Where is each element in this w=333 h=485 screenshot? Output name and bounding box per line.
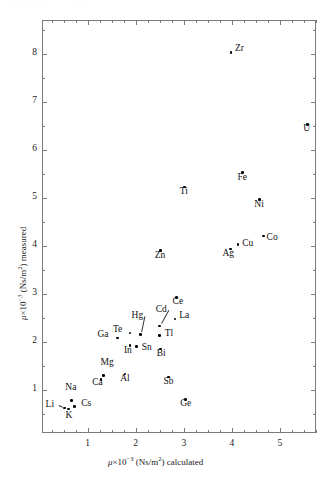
x-minor-tick-top	[64, 20, 65, 23]
y-minor-tick	[42, 366, 45, 367]
data-point-ga[interactable]	[116, 337, 119, 340]
point-label-na: Na	[65, 382, 76, 392]
point-label-co: Co	[267, 232, 278, 242]
point-label-zn: Zn	[155, 250, 166, 260]
data-point-mg[interactable]	[102, 374, 105, 377]
x-minor-tick	[304, 430, 305, 433]
x-tick-label-5: 5	[270, 438, 290, 448]
x-minor-tick	[64, 430, 65, 433]
x-minor-tick	[76, 430, 77, 433]
point-label-zr: Zr	[235, 43, 244, 53]
point-label-ca: Ca	[92, 377, 103, 387]
point-label-la: La	[179, 310, 189, 320]
point-label-cs: Cs	[81, 398, 91, 408]
point-label-bi: Bi	[157, 348, 166, 358]
x-minor-tick-top	[208, 20, 209, 23]
point-label-in: In	[124, 345, 132, 355]
x-major-tick-top	[88, 20, 89, 25]
x-minor-tick-top	[100, 20, 101, 23]
x-minor-tick	[268, 430, 269, 433]
scan-artifact-text: · · · · · · · · · ·	[10, 0, 310, 10]
x-major-tick-top	[232, 20, 233, 25]
y-minor-tick-right	[313, 174, 316, 175]
x-minor-tick	[220, 430, 221, 433]
x-minor-tick	[244, 430, 245, 433]
y-minor-tick	[42, 222, 45, 223]
y-major-tick-right	[311, 294, 316, 295]
y-minor-tick-right	[313, 366, 316, 367]
y-minor-tick-right	[313, 30, 316, 31]
x-axis-title: μ×10−3 (Ns/m2) calculated	[108, 455, 203, 467]
x-minor-tick-top	[112, 20, 113, 23]
y-minor-tick-right	[313, 414, 316, 415]
point-label-ga: Ga	[97, 329, 108, 339]
y-minor-tick-right	[313, 222, 316, 223]
x-minor-tick	[196, 430, 197, 433]
x-minor-tick-top	[244, 20, 245, 23]
x-minor-tick-top	[76, 20, 77, 23]
x-tick-label-1: 1	[78, 438, 98, 448]
point-label-tl: Tl	[165, 328, 173, 338]
point-label-hg: Hg	[132, 310, 144, 320]
data-point-sn[interactable]	[135, 345, 138, 348]
y-major-tick-right	[311, 54, 316, 55]
x-minor-tick	[256, 430, 257, 433]
x-minor-tick-top	[52, 20, 53, 23]
y-tick-label-6: 6	[22, 143, 37, 153]
x-minor-tick	[148, 430, 149, 433]
x-minor-tick-top	[124, 20, 125, 23]
y-minor-tick	[42, 30, 45, 31]
x-minor-tick-top	[304, 20, 305, 23]
y-major-tick	[42, 54, 47, 55]
x-minor-tick-top	[316, 20, 317, 23]
y-major-tick-right	[311, 342, 316, 343]
x-minor-tick	[292, 430, 293, 433]
x-minor-tick-top	[172, 20, 173, 23]
y-minor-tick-right	[313, 270, 316, 271]
y-major-tick	[42, 150, 47, 151]
point-label-mg: Mg	[101, 357, 114, 367]
y-major-tick-right	[311, 198, 316, 199]
x-minor-tick	[52, 430, 53, 433]
point-label-sb: Sb	[163, 376, 173, 386]
y-major-tick	[42, 102, 47, 103]
y-tick-label-5: 5	[22, 191, 37, 201]
plot-frame	[42, 20, 316, 433]
y-minor-tick	[42, 414, 45, 415]
data-point-zr[interactable]	[230, 51, 233, 54]
point-label-ge: Ge	[180, 398, 191, 408]
x-minor-tick	[124, 430, 125, 433]
x-minor-tick	[100, 430, 101, 433]
y-major-tick	[42, 342, 47, 343]
y-minor-tick	[42, 78, 45, 79]
x-tick-label-2: 2	[126, 438, 146, 448]
y-major-tick	[42, 390, 47, 391]
y-minor-tick-right	[313, 126, 316, 127]
x-minor-tick	[160, 430, 161, 433]
x-major-tick	[280, 428, 281, 433]
point-label-li: Li	[46, 399, 54, 409]
data-point-hg[interactable]	[139, 333, 142, 336]
y-major-tick-right	[311, 390, 316, 391]
data-point-cs[interactable]	[73, 405, 76, 408]
y-tick-label-1: 1	[22, 383, 37, 393]
data-point-na[interactable]	[70, 399, 73, 402]
y-minor-tick	[42, 174, 45, 175]
data-point-tl[interactable]	[158, 334, 161, 337]
point-label-ti: Ti	[180, 186, 188, 196]
y-major-tick-right	[311, 150, 316, 151]
point-label-ni: Ni	[254, 199, 264, 209]
x-major-tick-top	[280, 20, 281, 25]
point-label-al: Al	[120, 373, 130, 383]
y-minor-tick-right	[313, 318, 316, 319]
y-axis-title: μ×10−3 (Ns/m2) measured	[16, 227, 28, 320]
y-major-tick-right	[311, 246, 316, 247]
x-minor-tick-top	[220, 20, 221, 23]
point-label-cd: Cd	[156, 304, 167, 314]
x-major-tick-top	[184, 20, 185, 25]
y-tick-label-7: 7	[22, 95, 37, 105]
x-tick-label-3: 3	[174, 438, 194, 448]
y-major-tick	[42, 246, 47, 247]
x-major-tick	[184, 428, 185, 433]
y-major-tick	[42, 198, 47, 199]
